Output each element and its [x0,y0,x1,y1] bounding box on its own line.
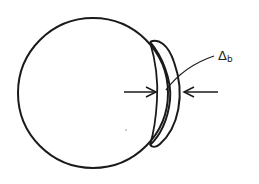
stray-dot [125,129,127,131]
delta-subscript: b [227,54,233,64]
delta-symbol: Δ [218,48,227,63]
left-thickness-arrow [124,87,156,97]
delta-b-label: Δb [218,49,233,64]
right-thickness-arrow [184,87,218,97]
sphere-circle [18,18,168,168]
diagram-canvas [0,0,259,184]
